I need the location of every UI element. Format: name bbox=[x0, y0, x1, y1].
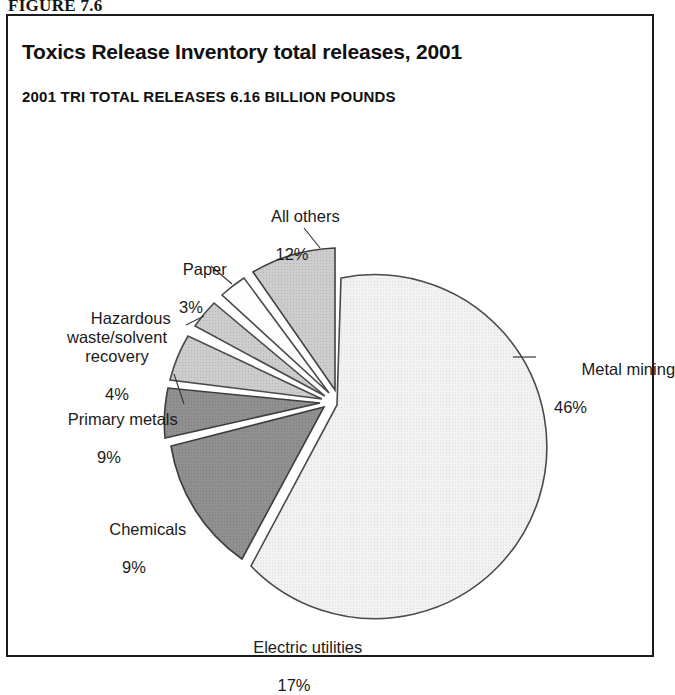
slice-label-electric-utilities: Electric utilities 17% bbox=[204, 619, 384, 695]
slice-label-metal-mining-pct: 46% bbox=[554, 398, 675, 417]
slice-label-metal-mining: Metal mining 46% bbox=[554, 341, 675, 455]
slice-label-chemicals-pct: 9% bbox=[64, 558, 204, 577]
slice-label-all-others-name: All others bbox=[271, 207, 340, 225]
pie-chart: Metal mining 46% All others 12% Paper 3%… bbox=[8, 116, 652, 656]
slice-label-electric-utilities-name: Electric utilities bbox=[253, 638, 362, 656]
slice-label-all-others-pct: 12% bbox=[227, 245, 357, 264]
slice-label-paper-name: Paper bbox=[183, 260, 227, 278]
page-title: Toxics Release Inventory total releases,… bbox=[22, 40, 462, 64]
slice-label-primary-metals-pct: 9% bbox=[30, 448, 188, 467]
slice-label-hazardous-waste-name: Hazardous waste/solvent recovery bbox=[67, 309, 171, 365]
figure-panel: Toxics Release Inventory total releases,… bbox=[6, 14, 654, 657]
slice-label-chemicals: Chemicals 9% bbox=[64, 501, 204, 615]
slice-label-metal-mining-name: Metal mining bbox=[582, 360, 675, 378]
slice-label-all-others: All others 12% bbox=[227, 188, 357, 302]
slice-label-primary-metals: Primary metals 9% bbox=[30, 391, 188, 505]
slice-label-electric-utilities-pct: 17% bbox=[204, 676, 384, 695]
chart-subtitle: 2001 TRI TOTAL RELEASES 6.16 BILLION POU… bbox=[22, 88, 396, 105]
slice-label-primary-metals-name: Primary metals bbox=[68, 410, 178, 428]
slice-label-chemicals-name: Chemicals bbox=[109, 520, 186, 538]
